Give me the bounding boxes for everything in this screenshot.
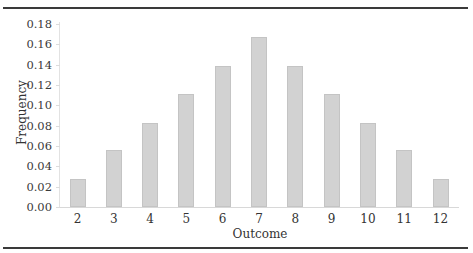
bar-12 (433, 179, 449, 207)
y-tick-mark (56, 166, 60, 167)
y-tick-mark (56, 85, 60, 86)
x-axis-label: Outcome (200, 227, 320, 241)
bar-2 (70, 179, 86, 207)
x-tick-label: 6 (205, 212, 241, 226)
bar-9 (324, 94, 340, 207)
bar-4 (142, 123, 158, 207)
x-tick-label: 3 (96, 212, 132, 226)
bar-3 (106, 150, 122, 207)
y-axis (59, 22, 60, 208)
bar-6 (215, 66, 231, 207)
x-axis (59, 207, 459, 208)
y-tick-label: 0.14 (0, 59, 52, 71)
x-tick-label: 4 (132, 212, 168, 226)
y-tick-mark (56, 24, 60, 25)
y-tick-label: 0.04 (0, 160, 52, 172)
y-tick-label: 0.02 (0, 181, 52, 193)
y-tick-mark (56, 207, 60, 208)
top-rule (3, 7, 468, 9)
x-tick-label: 11 (386, 212, 422, 226)
y-tick-label: 0.16 (0, 38, 52, 50)
x-tick-label: 12 (423, 212, 459, 226)
bar-8 (287, 66, 303, 207)
y-tick-mark (56, 126, 60, 127)
y-tick-label: 0.18 (0, 18, 52, 30)
y-tick-mark (56, 105, 60, 106)
bar-10 (360, 123, 376, 207)
y-tick-mark (56, 65, 60, 66)
y-tick-mark (56, 146, 60, 147)
y-tick-mark (56, 44, 60, 45)
bottom-rule (3, 247, 468, 249)
x-tick-label: 9 (314, 212, 350, 226)
bar-5 (178, 94, 194, 207)
y-axis-label: Frequency (15, 85, 29, 145)
x-tick-label: 7 (241, 212, 277, 226)
x-tick-label: 8 (277, 212, 313, 226)
bar-11 (396, 150, 412, 207)
x-tick-label: 2 (60, 212, 96, 226)
y-tick-label: 0.00 (0, 201, 52, 213)
y-tick-mark (56, 187, 60, 188)
bar-7 (251, 37, 267, 207)
x-tick-label: 5 (168, 212, 204, 226)
x-tick-label: 10 (350, 212, 386, 226)
